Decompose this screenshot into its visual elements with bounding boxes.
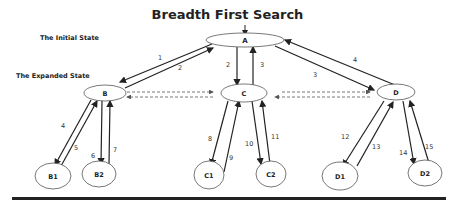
bottom-baseline: [12, 197, 446, 200]
svg-text:2: 2: [178, 64, 182, 72]
node-c: C: [221, 84, 267, 102]
svg-text:3: 3: [313, 71, 317, 79]
svg-text:14: 14: [399, 149, 407, 157]
svg-text:13: 13: [372, 143, 380, 151]
node-b2: B2: [82, 161, 116, 187]
svg-text:B: B: [103, 90, 108, 98]
node-b1: B1: [35, 163, 71, 189]
node-c1: C1: [194, 161, 224, 189]
edge-labels: 1 2 2 3 3 4 4 5 6 7 8 9 10 11 12 13 14 1…: [61, 54, 433, 162]
svg-text:1: 1: [158, 54, 162, 62]
edge-b-a: [125, 48, 213, 88]
edge-a-b: [120, 44, 212, 82]
svg-text:C: C: [242, 90, 247, 98]
svg-text:D: D: [393, 89, 399, 97]
svg-text:C1: C1: [204, 172, 214, 180]
svg-text:A: A: [242, 37, 248, 45]
svg-text:11: 11: [271, 133, 279, 141]
node-a: A: [206, 33, 284, 47]
svg-text:2: 2: [226, 61, 230, 69]
svg-text:6: 6: [91, 152, 95, 160]
svg-text:B1: B1: [48, 173, 58, 181]
svg-text:5: 5: [74, 144, 78, 152]
edge-c2-c: [262, 101, 270, 164]
svg-text:B2: B2: [94, 171, 103, 179]
edge-b-b2: [101, 101, 102, 164]
edge-d-a: [285, 40, 395, 85]
node-d1: D1: [322, 162, 358, 190]
svg-text:7: 7: [113, 146, 117, 154]
edge-b2-b: [109, 101, 110, 164]
edge-b-b1: [55, 100, 91, 165]
svg-text:4: 4: [353, 56, 357, 64]
node-c2: C2: [256, 161, 286, 187]
svg-text:15: 15: [425, 143, 433, 151]
edge-c-c2: [252, 101, 261, 164]
node-b: B: [84, 85, 126, 101]
svg-text:10: 10: [245, 140, 253, 148]
svg-text:9: 9: [229, 154, 233, 162]
edge-d2-d: [410, 101, 429, 163]
node-d: D: [377, 84, 415, 100]
svg-text:3: 3: [260, 61, 264, 69]
node-d2: D2: [408, 160, 442, 186]
svg-text:D2: D2: [420, 170, 430, 178]
edge-c-c1: [211, 101, 228, 165]
svg-text:8: 8: [208, 135, 212, 143]
edge-d1-d: [357, 102, 393, 166]
edge-a-d: [275, 46, 374, 90]
svg-text:4: 4: [61, 122, 65, 130]
svg-text:12: 12: [341, 133, 349, 141]
svg-text:D1: D1: [335, 173, 345, 181]
bfs-tree-diagram: A B C D B1 B2 C1 C2 D1 D2 1 2 2 3 3: [0, 0, 455, 206]
svg-text:C2: C2: [266, 171, 275, 179]
